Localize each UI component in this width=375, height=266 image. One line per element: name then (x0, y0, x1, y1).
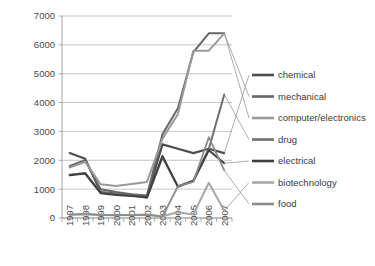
y-axis-tick-label: 7000 (34, 10, 55, 21)
x-axis-tick-label: 2006 (203, 205, 214, 226)
x-axis-tick-label: 2004 (172, 205, 183, 226)
y-axis-tick-label: 0 (50, 212, 55, 223)
legend-label-food[interactable]: food (278, 198, 297, 209)
legend-leader-line (224, 33, 249, 118)
y-axis-tick-label: 4000 (34, 97, 55, 108)
y-axis-tick-label: 5000 (34, 68, 55, 79)
legend-leader-line (224, 94, 249, 139)
legend-label-electrical[interactable]: electrical (278, 155, 316, 166)
legend-leader-line (224, 161, 249, 163)
y-axis-tick-label: 3000 (34, 126, 55, 137)
x-axis-tick-label: 1998 (80, 205, 91, 226)
legend-leader-lines (224, 33, 249, 210)
chart-canvas: 0100020003000400050006000700019971998199… (0, 0, 375, 266)
legend-label-drug[interactable]: drug (278, 134, 297, 145)
legend-label-biotechnology[interactable]: biotechnology (278, 177, 337, 188)
y-axis-tick-label: 2000 (34, 155, 55, 166)
y-axis-tick-label: 6000 (34, 39, 55, 50)
legend-leader-line (224, 33, 249, 96)
x-axis-tick-label: 2007 (219, 205, 230, 226)
y-axis-tick-label: 1000 (34, 184, 55, 195)
legend-label-chemical[interactable]: chemical (278, 69, 316, 80)
series-line-chemical (70, 144, 225, 196)
legend-label-mechanical[interactable]: mechanical (278, 91, 326, 102)
line-chart: 0100020003000400050006000700019971998199… (0, 0, 375, 266)
series-line-mechanical (70, 33, 225, 195)
legend-label-computer-electronics[interactable]: computer/electronics (278, 112, 366, 123)
legend: chemicalmechanicalcomputer/electronicsdr… (252, 69, 366, 209)
